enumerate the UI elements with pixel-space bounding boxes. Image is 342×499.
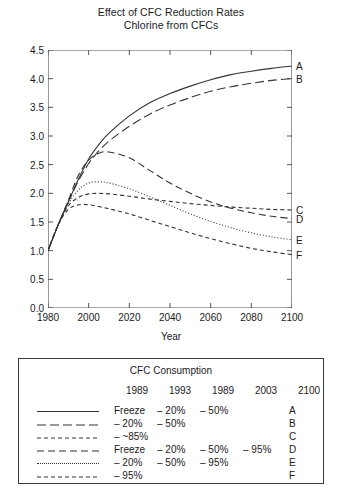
series-line-a xyxy=(48,66,292,251)
y-tick-label: 3.5 xyxy=(4,102,44,113)
legend-cell: – 95% xyxy=(243,444,271,455)
legend-cell: Freeze xyxy=(114,444,145,455)
legend-year-header: 2003 xyxy=(246,385,286,396)
chart-page: Effect of CFC Reduction Rates Chlorine f… xyxy=(0,0,342,499)
x-tick-label: 2040 xyxy=(159,312,181,323)
y-tick-label: 4.0 xyxy=(4,73,44,84)
legend-cell: – 20% xyxy=(157,444,185,455)
series-line-e xyxy=(48,182,292,251)
legend-row: Freeze– 20%– 50%A xyxy=(19,405,323,418)
plot-canvas xyxy=(48,50,292,308)
legend-year-header: 1989 xyxy=(203,385,243,396)
legend-line-sample-d xyxy=(37,450,99,451)
x-tick-label: 1980 xyxy=(37,312,59,323)
x-tick-label: 2100 xyxy=(281,312,303,323)
chart-title-line1: Effect of CFC Reduction Rates xyxy=(0,6,342,19)
legend-cell: – 20% xyxy=(114,418,142,429)
y-tick-label: 3.0 xyxy=(4,131,44,142)
end-label-a: A xyxy=(296,61,303,72)
x-tick-label: 2060 xyxy=(200,312,222,323)
legend-cell: – 50% xyxy=(200,444,228,455)
legend-line-sample-a xyxy=(37,411,99,413)
legend-year-header: 1989 xyxy=(117,385,157,396)
end-label-e: E xyxy=(296,234,303,245)
end-label-f: F xyxy=(296,249,302,260)
legend-title: CFC Consumption xyxy=(19,365,323,376)
x-axis-tick-labels: 1980200020202040206020802100 xyxy=(48,310,292,326)
legend-cell: – 20% xyxy=(157,405,185,416)
plot-area xyxy=(48,50,292,308)
legend-line-sample-c xyxy=(37,437,99,438)
chart-title-line2: Chlorine from CFCs xyxy=(0,19,342,32)
y-axis-tick-labels: 0.00.51.01.52.02.53.03.54.04.5 xyxy=(0,50,44,308)
legend-year-header: 1993 xyxy=(160,385,200,396)
series-end-labels: ABCDEF xyxy=(292,50,322,308)
y-tick-label: 2.0 xyxy=(4,188,44,199)
series-line-f xyxy=(48,204,292,254)
y-tick-label: 1.0 xyxy=(4,245,44,256)
legend-letter-d: D xyxy=(289,444,296,455)
legend-year-header: 2100 xyxy=(289,385,329,396)
legend-letter-b: B xyxy=(289,418,296,429)
legend-cell: Freeze xyxy=(114,405,145,416)
end-label-d: D xyxy=(296,213,303,224)
series-line-c xyxy=(48,193,292,250)
legend-line-sample-f xyxy=(37,476,99,477)
y-tick-label: 4.5 xyxy=(4,45,44,56)
legend-row: – 95%F xyxy=(19,470,323,483)
y-tick-label: 0.5 xyxy=(4,274,44,285)
legend-cell: – 95% xyxy=(114,470,142,481)
end-label-b: B xyxy=(296,73,303,84)
x-tick-label: 2000 xyxy=(78,312,100,323)
legend-cell: – 50% xyxy=(157,457,185,468)
legend-row: – ~85%C xyxy=(19,431,323,444)
x-tick-label: 2080 xyxy=(240,312,262,323)
legend-row: – 20%– 50%– 95%E xyxy=(19,457,323,470)
legend-year-headers: 19891993198920032100 xyxy=(19,385,323,399)
legend: CFC Consumption 19891993198920032100 Fre… xyxy=(18,358,324,484)
legend-letter-c: C xyxy=(289,431,296,442)
x-axis-label: Year xyxy=(0,331,342,342)
x-tick-label: 2020 xyxy=(118,312,140,323)
legend-cell: – 20% xyxy=(114,457,142,468)
legend-cell: – 50% xyxy=(200,405,228,416)
legend-rows: Freeze– 20%– 50%A– 20%– 50%B– ~85%CFreez… xyxy=(19,405,323,483)
legend-cell: – 95% xyxy=(200,457,228,468)
legend-cell: – 50% xyxy=(157,418,185,429)
y-tick-label: 2.5 xyxy=(4,159,44,170)
legend-row: – 20%– 50%B xyxy=(19,418,323,431)
legend-cell: – ~85% xyxy=(114,431,148,442)
legend-letter-e: E xyxy=(289,457,296,468)
chart-title: Effect of CFC Reduction Rates Chlorine f… xyxy=(0,6,342,32)
legend-row: Freeze– 20%– 50%– 95%D xyxy=(19,444,323,457)
legend-line-sample-b xyxy=(37,424,99,425)
y-tick-label: 1.5 xyxy=(4,217,44,228)
legend-letter-f: F xyxy=(289,470,295,481)
legend-letter-a: A xyxy=(289,405,296,416)
legend-line-sample-e xyxy=(37,463,99,465)
